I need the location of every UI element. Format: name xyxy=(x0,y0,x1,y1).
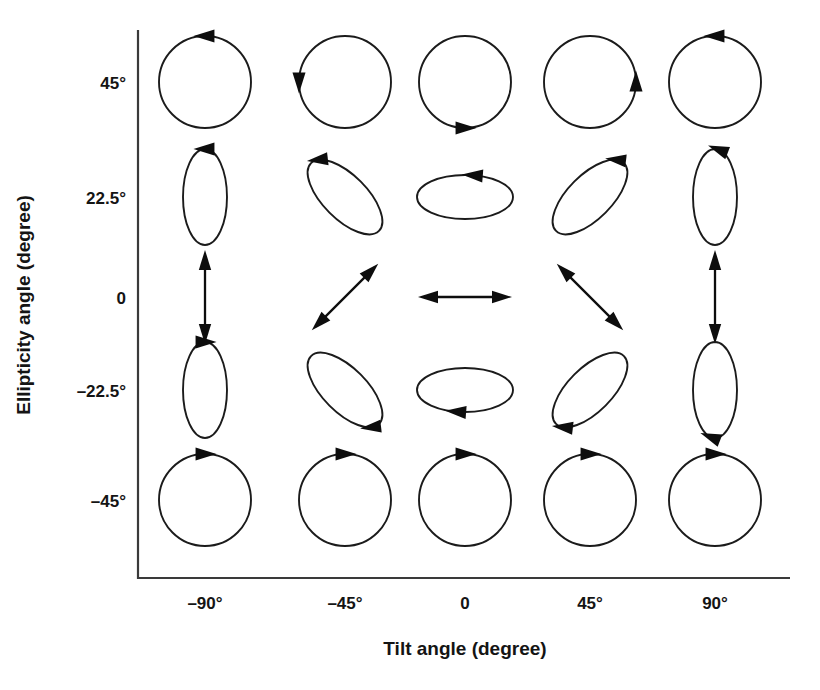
y-axis-title: Ellipticity angle (degree) xyxy=(13,195,34,415)
polarization-state-cell xyxy=(159,447,251,546)
rotation-direction-arrow-icon xyxy=(193,29,214,42)
polarization-state-cell xyxy=(693,342,737,447)
linear-polarization-line xyxy=(325,277,366,318)
polarization-state-cell xyxy=(183,142,227,245)
x-tick-label: –45° xyxy=(327,594,362,613)
ellipse-grid xyxy=(159,17,761,565)
arrow-head-negative-icon xyxy=(709,250,721,270)
elliptical-polarization-ellipse xyxy=(693,149,737,245)
rotation-direction-arrow-icon xyxy=(703,29,724,42)
polarization-state-cell xyxy=(525,435,655,565)
elliptical-polarization-ellipse xyxy=(693,342,737,438)
polarization-state-cell xyxy=(159,29,251,128)
rotation-direction-arrow-icon xyxy=(336,447,357,460)
rotation-direction-arrow-icon xyxy=(629,70,642,91)
x-axis-title: Tilt angle (degree) xyxy=(383,638,546,659)
polarization-state-cell xyxy=(669,447,761,546)
elliptical-polarization-ellipse xyxy=(417,175,513,219)
rotation-direction-arrow-icon xyxy=(706,447,727,460)
polarization-state-cell xyxy=(541,148,640,247)
x-tick-label: 45° xyxy=(577,594,603,613)
circular-polarization-ellipse xyxy=(669,36,761,128)
circular-polarization-ellipse xyxy=(159,36,251,128)
y-tick-label: 0 xyxy=(117,289,126,308)
y-tick-labels: 45°22.5°0–22.5°–45° xyxy=(77,74,127,511)
elliptical-polarization-ellipse xyxy=(417,368,513,412)
arrow-head-negative-icon xyxy=(418,291,438,303)
polarization-state-cell xyxy=(419,36,511,135)
rotation-direction-arrow-icon xyxy=(445,406,466,419)
circular-polarization-ellipse xyxy=(159,454,251,546)
polarization-state-cell xyxy=(418,291,512,303)
polarization-state-cell xyxy=(417,368,513,419)
polarization-state-cell xyxy=(541,341,640,440)
y-tick-label: –45° xyxy=(91,492,126,511)
polarization-state-cell xyxy=(709,250,721,344)
polarization-state-cell xyxy=(557,264,623,330)
chart-canvas: –90°–45°045°90° 45°22.5°0–22.5°–45° Tilt… xyxy=(0,0,820,690)
rotation-direction-arrow-icon xyxy=(462,170,483,183)
polarization-ellipse-figure: –90°–45°045°90° 45°22.5°0–22.5°–45° Tilt… xyxy=(0,0,820,690)
polarization-state-cell xyxy=(693,146,737,245)
polarization-state-cell xyxy=(296,148,395,247)
polarization-state-cell xyxy=(417,170,513,219)
elliptical-polarization-ellipse xyxy=(183,149,227,245)
x-tick-label: 0 xyxy=(460,594,469,613)
rotation-direction-arrow-icon xyxy=(456,121,477,134)
x-tick-label: –90° xyxy=(187,594,222,613)
arrow-head-positive-icon xyxy=(199,250,211,270)
chart-axes xyxy=(138,30,790,578)
polarization-state-cell xyxy=(296,341,395,440)
polarization-state-cell xyxy=(419,447,511,546)
circular-polarization-ellipse xyxy=(419,454,511,546)
polarization-state-cell xyxy=(280,17,410,147)
y-tick-label: –22.5° xyxy=(77,382,127,401)
polarization-state-cell xyxy=(280,435,410,565)
polarization-state-cell xyxy=(525,17,655,147)
arrow-head-positive-icon xyxy=(492,291,512,303)
rotation-direction-arrow-icon xyxy=(456,447,477,460)
rotation-direction-arrow-icon xyxy=(292,73,305,94)
axis-lines xyxy=(138,30,790,578)
y-tick-label: 22.5° xyxy=(86,189,126,208)
x-tick-label: 90° xyxy=(702,594,728,613)
rotation-direction-arrow-icon xyxy=(196,447,217,460)
circular-polarization-ellipse xyxy=(669,454,761,546)
circular-polarization-ellipse xyxy=(419,36,511,128)
polarization-state-cell xyxy=(199,250,211,344)
y-tick-label: 45° xyxy=(100,74,126,93)
polarization-state-cell xyxy=(669,29,761,128)
elliptical-polarization-ellipse xyxy=(541,341,640,440)
rotation-direction-arrow-icon xyxy=(581,447,602,460)
elliptical-polarization-ellipse xyxy=(296,148,395,247)
elliptical-polarization-ellipse xyxy=(183,342,227,438)
linear-polarization-line xyxy=(570,277,611,318)
polarization-state-cell xyxy=(183,335,227,438)
x-tick-labels: –90°–45°045°90° xyxy=(187,594,728,613)
polarization-state-cell xyxy=(312,264,378,330)
rotation-direction-arrow-icon xyxy=(700,433,722,447)
arrow-head-positive-icon xyxy=(709,324,721,344)
